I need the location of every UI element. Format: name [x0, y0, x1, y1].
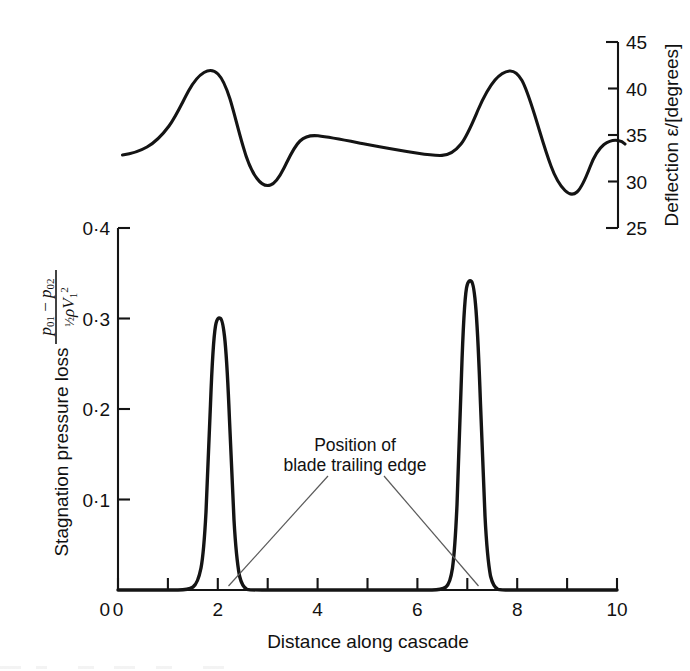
lower-x-tick-label-2: 2	[213, 599, 224, 620]
lower-y-tick-label-0.3: 0·3	[83, 309, 110, 330]
upper-axis-title: Deflection ε/[degrees]	[661, 44, 682, 227]
upper-axis-tick-label-45: 45	[626, 32, 647, 53]
lower-x-tick-label-4: 4	[312, 599, 323, 620]
deflection-curve	[123, 71, 626, 195]
figure-container: 45 40 35 30 25 Deflection ε/[degrees] 0·…	[0, 0, 690, 671]
fraction-numerator: p01 − p02	[36, 278, 56, 336]
annotation-leader-lines	[229, 476, 479, 586]
lower-axis-y-ticks	[118, 228, 130, 500]
upper-axis-tick-label-25: 25	[626, 218, 647, 239]
leader-line-right	[384, 476, 479, 586]
lower-y-tick-label-0: 0	[99, 599, 110, 620]
annotation-line-1: Position of	[314, 435, 396, 455]
lower-plot-group: 0·4 0·3 0·2 0·1 0 0 2 4 6 8 10	[36, 218, 628, 652]
cascade-traverse-figure: 45 40 35 30 25 Deflection ε/[degrees] 0·…	[0, 0, 690, 671]
upper-plot-group	[123, 71, 626, 195]
fraction-denominator: ½ρV12	[58, 287, 79, 326]
lower-y-axis-fraction: p01 − p02 ½ρV12	[36, 270, 79, 344]
lower-x-tick-label-8: 8	[512, 599, 523, 620]
upper-axis-tick-label-30: 30	[626, 172, 647, 193]
upper-right-axis: 45 40 35 30 25 Deflection ε/[degrees]	[606, 32, 682, 239]
upper-axis-tick-label-40: 40	[626, 79, 647, 100]
lower-x-tick-label-6: 6	[412, 599, 423, 620]
leader-line-left	[229, 476, 329, 586]
lower-x-tick-label-10: 10	[606, 599, 627, 620]
lower-y-tick-label-0.2: 0·2	[83, 399, 110, 420]
scan-edge-artifact	[0, 666, 260, 669]
lower-y-axis-title: Stagnation pressure loss	[51, 347, 72, 556]
upper-axis-tick-label-35: 35	[626, 125, 647, 146]
lower-y-tick-label-0.1: 0·1	[83, 490, 110, 511]
annotation-line-2: blade trailing edge	[283, 455, 426, 475]
lower-x-tick-label-0: 0	[113, 599, 124, 620]
lower-x-axis-title: Distance along cascade	[267, 631, 469, 652]
lower-y-tick-label-0.4: 0·4	[83, 218, 111, 239]
